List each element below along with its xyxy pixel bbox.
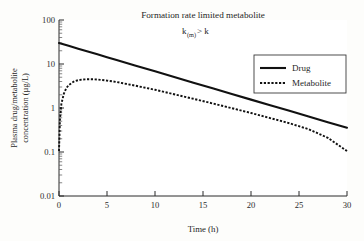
- x-axis-tick-labels: 0 5 10 15 20 25 30: [57, 200, 351, 210]
- legend-label-drug[interactable]: Drug: [292, 63, 311, 73]
- plot-area-background: [59, 20, 347, 196]
- y-axis-title-line2: concentration (µg/L): [21, 73, 30, 143]
- subtitle-subscript: (m): [187, 31, 196, 39]
- pharmacokinetics-log-line-chart: Formation rate limited metabolite k (m) …: [0, 0, 364, 241]
- x-axis-title: Time (h): [188, 224, 219, 234]
- chart-legend[interactable]: Drug Metabolite: [254, 55, 346, 93]
- chart-title: Formation rate limited metabolite: [141, 10, 265, 20]
- y-tick-label-2: 1: [51, 103, 55, 113]
- subtitle-comparison: > k: [197, 26, 209, 36]
- y-tick-label-4: 100: [42, 15, 55, 25]
- y-tick-label-3: 10: [46, 59, 55, 69]
- x-tick-label-6: 30: [343, 200, 352, 210]
- y-axis-title-line1: Plasma drug/metabolite: [10, 68, 19, 148]
- x-tick-label-0: 0: [57, 200, 61, 210]
- x-tick-label-2: 10: [151, 200, 160, 210]
- y-tick-label-1: 0.1: [44, 147, 55, 157]
- y-axis-tick-labels: 0.01 0.1 1 10 100: [40, 15, 55, 201]
- x-tick-label-4: 20: [247, 200, 256, 210]
- y-tick-label-0: 0.01: [40, 191, 55, 201]
- y-axis-title: Plasma drug/metabolite concentration (µg…: [10, 68, 30, 148]
- x-tick-label-3: 15: [199, 200, 208, 210]
- figure-container: Formation rate limited metabolite k (m) …: [0, 0, 364, 241]
- legend-label-metabolite[interactable]: Metabolite: [292, 78, 331, 88]
- x-tick-label-5: 25: [295, 200, 304, 210]
- x-tick-label-1: 5: [105, 200, 109, 210]
